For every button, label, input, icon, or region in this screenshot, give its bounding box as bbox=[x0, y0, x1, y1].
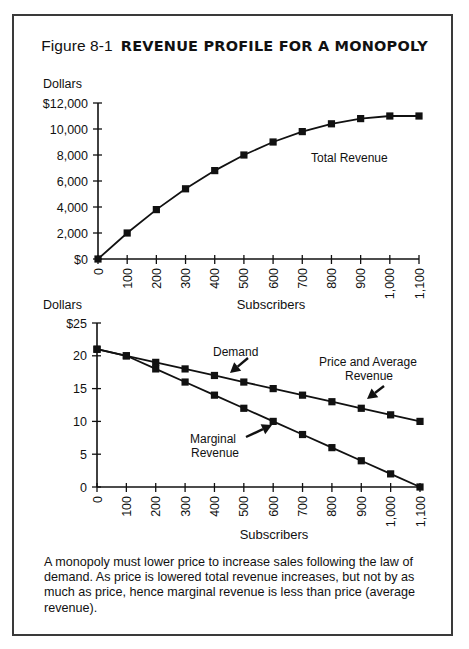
arrow-shaft bbox=[246, 429, 263, 437]
data-point-marker bbox=[270, 418, 277, 425]
annotation-label: Revenue bbox=[191, 446, 239, 460]
charts-canvas: $02,0004,0006,0008,00010,000$12,00001002… bbox=[0, 0, 469, 649]
annotation-label: Marginal bbox=[190, 432, 236, 446]
data-point-marker bbox=[182, 185, 189, 192]
data-point-marker bbox=[181, 378, 188, 385]
data-point-marker bbox=[181, 365, 188, 372]
arrow-head-icon bbox=[367, 389, 378, 399]
data-point-marker bbox=[152, 365, 159, 372]
data-point-marker bbox=[299, 128, 306, 135]
x-tick-label: 300 bbox=[179, 268, 193, 289]
data-point-marker bbox=[211, 372, 218, 379]
demand-marginal-revenue-chart: 05101520$2501002003004005006007008009001… bbox=[43, 298, 428, 542]
series-line bbox=[98, 116, 419, 259]
annotation-label: Total Revenue bbox=[311, 151, 388, 165]
data-point-marker bbox=[124, 229, 131, 236]
data-point-marker bbox=[416, 418, 423, 425]
annotation-label: Demand bbox=[213, 345, 258, 359]
x-axis-title: Subscribers bbox=[240, 527, 309, 542]
data-point-marker bbox=[328, 120, 335, 127]
y-tick-label: 10 bbox=[73, 415, 87, 429]
data-point-marker bbox=[387, 411, 394, 418]
x-tick-label: 800 bbox=[325, 496, 339, 517]
y-tick-label: 8,000 bbox=[57, 149, 88, 163]
x-axis-title: Subscribers bbox=[237, 297, 306, 312]
x-tick-label: 1,100 bbox=[413, 268, 427, 299]
y-tick-label: 6,000 bbox=[57, 175, 88, 189]
data-point-marker bbox=[415, 112, 422, 119]
x-tick-label: 800 bbox=[325, 268, 339, 289]
figure-caption: A monopoly must lower price to increase … bbox=[44, 555, 444, 616]
x-tick-label: 100 bbox=[120, 496, 134, 517]
x-tick-label: 700 bbox=[296, 268, 310, 289]
data-point-marker bbox=[299, 431, 306, 438]
x-tick-label: 400 bbox=[208, 268, 222, 289]
arrow-shaft bbox=[375, 386, 384, 393]
x-tick-label: 1,000 bbox=[383, 268, 397, 299]
y-tick-label: $0 bbox=[74, 253, 88, 267]
x-tick-label: 600 bbox=[267, 268, 281, 289]
arrow-shaft bbox=[238, 358, 248, 367]
data-point-marker bbox=[270, 385, 277, 392]
data-point-marker bbox=[357, 115, 364, 122]
y-tick-label: 20 bbox=[73, 349, 87, 363]
y-tick-label: 4,000 bbox=[57, 201, 88, 215]
data-point-marker bbox=[387, 470, 394, 477]
annotation-label: Revenue bbox=[345, 369, 393, 383]
x-tick-label: 500 bbox=[237, 496, 251, 517]
data-point-marker bbox=[328, 444, 335, 451]
data-point-marker bbox=[386, 112, 393, 119]
y-tick-label: 2,000 bbox=[57, 227, 88, 241]
x-tick-label: 600 bbox=[267, 496, 281, 517]
y-tick-label: 15 bbox=[73, 382, 87, 396]
data-point-marker bbox=[240, 378, 247, 385]
data-point-marker bbox=[152, 359, 159, 366]
x-tick-label: 700 bbox=[296, 496, 310, 517]
data-point-marker bbox=[123, 352, 130, 359]
data-point-marker bbox=[328, 398, 335, 405]
data-point-marker bbox=[299, 392, 306, 399]
x-tick-label: 1,000 bbox=[384, 496, 398, 527]
x-tick-label: 100 bbox=[121, 268, 135, 289]
data-point-marker bbox=[358, 457, 365, 464]
x-tick-label: 200 bbox=[149, 496, 163, 517]
data-point-marker bbox=[94, 255, 101, 262]
x-tick-label: 300 bbox=[179, 496, 193, 517]
x-tick-label: 900 bbox=[355, 496, 369, 517]
y-tick-label: 0 bbox=[80, 481, 87, 495]
data-point-marker bbox=[240, 151, 247, 158]
data-point-marker bbox=[153, 206, 160, 213]
x-tick-label: 500 bbox=[237, 268, 251, 289]
y-tick-label: 5 bbox=[80, 448, 87, 462]
y-axis-title: Dollars bbox=[43, 77, 82, 91]
x-tick-label: 900 bbox=[354, 268, 368, 289]
x-tick-label: 0 bbox=[91, 496, 105, 503]
x-tick-label: 0 bbox=[92, 268, 106, 275]
x-tick-label: 200 bbox=[150, 268, 164, 289]
y-tick-label: $25 bbox=[66, 317, 87, 331]
y-tick-label: 10,000 bbox=[50, 123, 88, 137]
data-point-marker bbox=[211, 392, 218, 399]
x-tick-label: 400 bbox=[208, 496, 222, 517]
total-revenue-chart: $02,0004,0006,0008,00010,000$12,00001002… bbox=[43, 77, 427, 312]
y-tick-label: $12,000 bbox=[43, 97, 88, 111]
x-tick-label: 1,100 bbox=[414, 496, 428, 527]
data-point-marker bbox=[358, 405, 365, 412]
y-axis-title: Dollars bbox=[43, 298, 82, 312]
data-point-marker bbox=[416, 483, 423, 490]
data-point-marker bbox=[93, 346, 100, 353]
data-point-marker bbox=[211, 167, 218, 174]
data-point-marker bbox=[240, 405, 247, 412]
annotation-label: Price and Average bbox=[319, 355, 417, 369]
data-point-marker bbox=[269, 138, 276, 145]
